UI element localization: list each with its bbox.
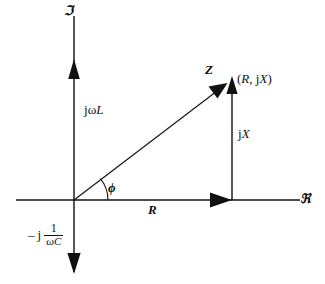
reactance-arrowhead	[226, 76, 237, 94]
real-axis-label: ℜ	[300, 192, 311, 205]
capacitive-fraction: 1 ωC	[44, 222, 63, 247]
resistance-arrowhead	[210, 193, 232, 208]
capacitive-numerator: 1	[49, 222, 59, 235]
capacitive-minus: –	[28, 228, 37, 241]
inductive-omega: ω	[88, 102, 97, 117]
reactance-X: X	[242, 126, 250, 141]
impedance-coordinates-label: (R, jX)	[237, 72, 272, 85]
phase-angle-arc	[100, 179, 108, 200]
paren-close: )	[267, 71, 271, 86]
impedance-vector-arrowhead	[209, 83, 228, 99]
capacitive-j: j	[38, 228, 44, 241]
imaginary-axis-label: ℑ	[64, 4, 73, 17]
resistance-label: R	[148, 203, 157, 216]
inductive-reactance-label: jωL	[84, 103, 103, 116]
impedance-vector-label: Z	[205, 63, 213, 76]
capacitive-reactance-label: – j 1 ωC	[28, 222, 63, 247]
inductive-direction-arrowhead	[68, 59, 80, 79]
capacitive-direction-arrowhead	[67, 253, 80, 274]
phase-angle-label: ϕ	[108, 181, 116, 194]
phasor-diagram-figure: ℑ ℜ jωL – j 1 ωC Z (R, jX) jX ϕ R	[0, 0, 325, 284]
reactance-label: jX	[238, 127, 250, 140]
capacitive-denominator: ωC	[44, 236, 63, 248]
inductive-L: L	[96, 102, 103, 117]
